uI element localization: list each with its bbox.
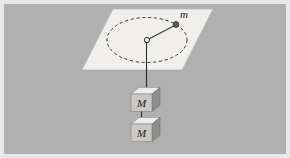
hanging-block-lower: M [131, 118, 160, 142]
center-hole [144, 37, 149, 42]
orbiting-mass-dot [173, 22, 179, 28]
hanging-block-upper: M [131, 88, 160, 112]
physics-figure: m M M [0, 0, 290, 158]
block-upper-label: M [136, 97, 147, 109]
block-lower-label: M [136, 127, 147, 139]
mass-m-label: m [180, 8, 188, 20]
figure-canvas: m M M [0, 0, 290, 158]
plane-front-edge-shade [82, 70, 182, 72]
